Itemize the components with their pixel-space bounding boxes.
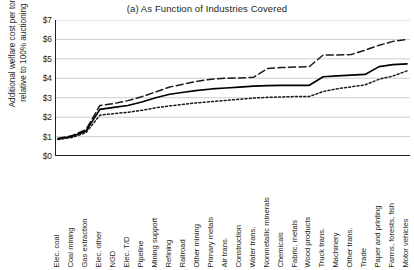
y-axis-tick-label: $2 — [28, 112, 52, 122]
y-axis-tick-label: $0 — [28, 151, 52, 161]
x-axis-tick-label: Elec. T/D — [123, 237, 131, 268]
x-axis-tick-label: Truck trans. — [319, 228, 327, 268]
x-axis-labels: Elec. coalCoal miningGas extractionElec.… — [55, 160, 410, 268]
data-series-group — [58, 39, 407, 139]
x-axis-tick-label: Water trans. — [249, 227, 257, 268]
x-axis-tick-label: Air trans. — [221, 238, 229, 268]
y-axis-tick-label: $1 — [28, 132, 52, 142]
x-axis-tick-label: Paper and printing — [375, 206, 383, 268]
y-axis-label-line1: Additional welfare cost per ton — [8, 0, 19, 123]
x-axis-tick-label: Other mining — [193, 225, 201, 268]
y-axis-tick-label: $5 — [28, 54, 52, 64]
x-axis-tick-label: Motor vehicles — [403, 219, 411, 268]
series-line-middle — [58, 64, 407, 139]
x-axis-tick-label: Farms, forests, fish — [389, 203, 397, 268]
x-axis-tick-label: Elec. other — [95, 232, 103, 268]
y-axis-tick-label: $4 — [28, 73, 52, 83]
x-axis-tick-label: Machinery — [333, 233, 341, 268]
y-axis-tick-label: $7 — [28, 15, 52, 25]
plot-svg — [55, 20, 410, 156]
x-axis-tick-label: Coal mining — [68, 228, 76, 268]
x-axis-tick-label: Chemicals — [277, 233, 285, 268]
x-axis-tick-label: Refining — [165, 240, 173, 268]
x-axis-tick-label: Pipeline — [137, 241, 145, 268]
x-axis-tick-label: Gas extraction — [82, 219, 90, 268]
x-axis-tick-label: Wood products — [305, 217, 313, 268]
x-axis-tick-label: Trade — [361, 248, 369, 268]
series-line-lower — [58, 71, 407, 140]
series-line-upper — [58, 39, 407, 138]
plot-area — [55, 20, 410, 156]
x-axis-tick-label: Elec. coal — [54, 235, 62, 268]
x-axis-tick-label: Nonmetallic minerals — [263, 198, 271, 268]
y-axis-tick-labels: $0$1$2$3$4$5$6$7 — [26, 20, 52, 156]
welfare-cost-chart: (a) As Function of Industries Covered Ad… — [0, 0, 414, 270]
chart-title: (a) As Function of Industries Covered — [0, 3, 414, 14]
x-axis-tick-label: Railroad — [179, 240, 187, 268]
y-axis-tick-label: $6 — [28, 34, 52, 44]
y-axis-tick-label: $3 — [28, 93, 52, 103]
x-axis-tick-label: Other trans. — [347, 228, 355, 268]
x-axis-tick-label: Fabric. metals — [291, 220, 299, 268]
x-axis-tick-label: Mining support — [151, 218, 159, 268]
x-axis-tick-label: Primary metals — [207, 217, 215, 268]
x-axis-tick-label: NGD — [109, 251, 117, 268]
x-axis-tick-label: Construction — [235, 225, 243, 268]
